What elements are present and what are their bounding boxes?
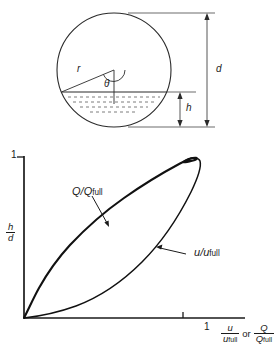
annotation-q-den-sub: full [92, 188, 102, 197]
dimension-h [177, 92, 182, 127]
annotation-q-num: Q [72, 185, 81, 197]
theta-angle-arc-outer [114, 70, 125, 82]
y-tick-label-1: 1 [11, 150, 17, 160]
x-axis-second-den: Qfull [254, 334, 274, 344]
curve-u-over-ufull [24, 158, 200, 318]
annotation-q-over-qfull: Q/Qfull [72, 186, 103, 197]
x-axis-label-first-fraction: u ufull [221, 323, 239, 344]
theta-label: θ [104, 79, 109, 89]
diameter-label: d [216, 64, 222, 74]
x-axis-label-second-fraction: Q Qfull [254, 323, 274, 344]
y-axis-label: h d [6, 222, 15, 243]
x-tick-label-1: 1 [204, 322, 210, 332]
dimension-d [204, 13, 209, 127]
curve-q-over-qfull [24, 158, 197, 318]
annotation-q-den: Q [84, 185, 93, 197]
annotation-u-den-sub: full [209, 249, 219, 258]
pipe-cross-section-diagram [0, 0, 277, 140]
x-axis-first-den-sub: full [228, 336, 237, 343]
x-axis-conjunction: or [239, 328, 253, 339]
annotation-u-over-ufull: u/ufull [194, 247, 220, 258]
x-axis-label: u ufull or Q Qfull [221, 323, 274, 344]
leader-line-u [160, 248, 186, 254]
figure-container: r θ d h 1 1 h d u uf [0, 0, 277, 363]
depth-label: h [186, 103, 192, 113]
radius-label: r [77, 64, 80, 74]
x-axis-second-den-sub: full [263, 336, 272, 343]
x-axis-first-den: ufull [221, 334, 239, 344]
leader-arrow-q [104, 220, 109, 227]
leader-line-q [92, 196, 107, 223]
y-axis-label-den: d [6, 233, 15, 243]
